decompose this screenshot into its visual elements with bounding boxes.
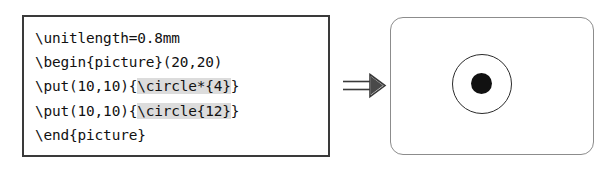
code-text: \put(10,10){ bbox=[35, 78, 137, 94]
output-panel bbox=[390, 17, 594, 155]
code-text: \unitlength=0.8mm bbox=[35, 30, 180, 46]
code-line: \put(10,10){\circle*{4}} bbox=[35, 74, 324, 98]
highlighted-command: \circle*{4} bbox=[137, 78, 231, 94]
code-panel: \unitlength=0.8mm\begin{picture}(20,20)\… bbox=[22, 15, 330, 157]
code-text: \begin{picture}(20,20) bbox=[35, 54, 222, 70]
code-text: } bbox=[231, 78, 240, 94]
code-line: \begin{picture}(20,20) bbox=[35, 50, 324, 74]
code-text: \put(10,10){ bbox=[35, 103, 137, 119]
latex-picture-figure: \unitlength=0.8mm\begin{picture}(20,20)\… bbox=[0, 0, 614, 172]
picture-canvas bbox=[391, 18, 593, 154]
code-listing: \unitlength=0.8mm\begin{picture}(20,20)\… bbox=[35, 26, 324, 147]
double-right-arrow-icon bbox=[340, 70, 390, 102]
code-line: \end{picture} bbox=[35, 123, 324, 147]
code-line: \put(10,10){\circle{12}} bbox=[35, 99, 324, 123]
code-line: \unitlength=0.8mm bbox=[35, 26, 324, 50]
code-text: \end{picture} bbox=[35, 127, 146, 143]
filled-disk-shape bbox=[471, 73, 492, 94]
highlighted-command: \circle{12} bbox=[137, 103, 231, 119]
code-text: } bbox=[231, 103, 240, 119]
